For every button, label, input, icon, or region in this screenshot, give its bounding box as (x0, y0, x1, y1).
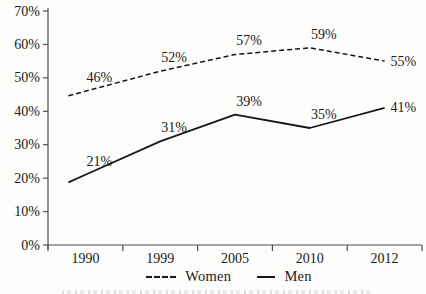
men-line (68, 108, 384, 182)
line-chart-figure: 0%10%20%30%40%50%60%70%19901999200520102… (0, 0, 426, 294)
x-category-label: 2005 (221, 251, 249, 266)
solid-line-sample (257, 276, 275, 278)
dashed-line-sample (146, 276, 176, 278)
data-label-men-2005: 39% (236, 94, 262, 109)
x-category-label: 2012 (371, 251, 399, 266)
y-tick-label: 50% (14, 70, 40, 85)
chart-legend: Women Men (16, 267, 426, 285)
x-category-label: 1990 (71, 251, 99, 266)
data-label-men-2010: 35% (311, 107, 337, 122)
legend-label-men: Men (284, 269, 311, 284)
y-tick-label: 70% (14, 4, 40, 19)
x-category-label: 1999 (146, 251, 174, 266)
y-tick-label: 60% (14, 37, 40, 52)
data-label-women-2012: 55% (391, 54, 417, 69)
y-tick-label: 20% (14, 171, 40, 186)
y-tick-label: 30% (14, 137, 40, 152)
women-line (68, 48, 384, 96)
legend-label-women: Women (185, 269, 231, 284)
y-tick-label: 40% (14, 104, 40, 119)
legend-item-men: Men (257, 269, 311, 284)
cutoff-caption-remnant (62, 290, 370, 294)
chart-plot-area: 0%10%20%30%40%50%60%70%19901999200520102… (0, 0, 426, 267)
data-label-women-1999: 52% (161, 50, 187, 65)
y-tick-label: 0% (21, 238, 40, 253)
legend-item-women: Women (146, 269, 231, 284)
data-label-men-1990: 21% (87, 154, 113, 169)
y-tick-label: 10% (14, 204, 40, 219)
data-label-men-2012: 41% (391, 100, 417, 115)
data-label-men-1999: 31% (161, 120, 187, 135)
data-label-women-2010: 59% (311, 27, 337, 42)
data-label-women-1990: 46% (87, 70, 113, 85)
data-label-women-2005: 57% (236, 33, 262, 48)
x-category-label: 2010 (296, 251, 324, 266)
